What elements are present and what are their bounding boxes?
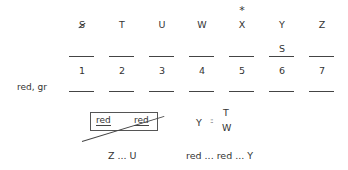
row-blank-5[interactable] — [229, 91, 254, 92]
row-blank-6[interactable] — [269, 91, 294, 92]
number-5: 5 — [227, 65, 257, 76]
blank-2[interactable] — [109, 56, 134, 57]
blank-6[interactable] — [269, 56, 294, 57]
blank-5[interactable] — [229, 56, 254, 57]
note-1: Z ... U — [108, 150, 137, 161]
number-4: 4 — [187, 65, 217, 76]
number-6: 6 — [267, 65, 297, 76]
letter-col-5: X — [227, 19, 257, 30]
number-2: 2 — [107, 65, 137, 76]
star-icon: * — [227, 4, 257, 17]
row-blank-2[interactable] — [109, 91, 134, 92]
row-label: red, gr — [17, 82, 47, 92]
relation-operator: :: — [210, 117, 213, 125]
letter-col-2: T — [107, 19, 137, 30]
row-blank-1[interactable] — [69, 91, 94, 92]
number-7: 7 — [307, 65, 337, 76]
letter-col-7: Z — [307, 19, 337, 30]
blank-7[interactable] — [309, 56, 334, 57]
row-blank-3[interactable] — [149, 91, 174, 92]
relation-top: T — [223, 107, 229, 118]
letter-col-3: U — [147, 19, 177, 30]
number-1: 1 — [67, 65, 97, 76]
note-2: red ... red ... Y — [186, 150, 253, 161]
relation-bottom: W — [222, 122, 231, 133]
blank-3[interactable] — [149, 56, 174, 57]
letter-col-6: Y — [267, 19, 297, 30]
row-blank-7[interactable] — [309, 91, 334, 92]
blank-1[interactable] — [69, 56, 94, 57]
filled-blank-letter: S — [267, 43, 297, 54]
blank-4[interactable] — [189, 56, 214, 57]
relation-left: Y — [196, 117, 202, 128]
number-3: 3 — [147, 65, 177, 76]
crossed-out-letter: S — [79, 19, 85, 30]
row-blank-4[interactable] — [189, 91, 214, 92]
box-word-left: red — [96, 115, 111, 126]
letter-col-4: W — [187, 19, 217, 30]
letter-col-1: S — [67, 19, 97, 30]
